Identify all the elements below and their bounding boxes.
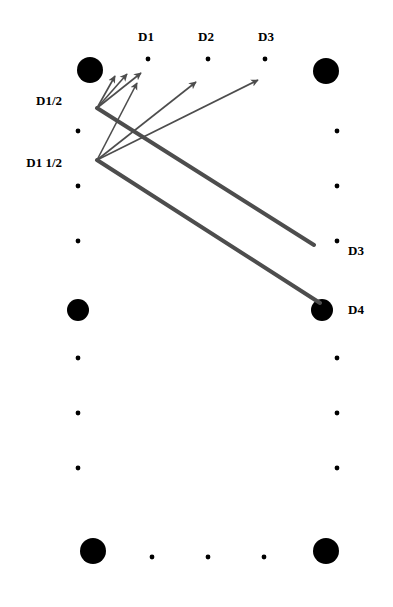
diamond-right-1	[335, 129, 340, 134]
diamond-left-4	[76, 356, 81, 361]
label-top-d3: D3	[258, 30, 274, 43]
arrow-2	[97, 74, 127, 108]
arrow-1	[97, 76, 115, 108]
diamond-left-5	[76, 411, 81, 416]
billiard-table-svg	[0, 0, 393, 607]
diamond-right-5	[335, 411, 340, 416]
middle-right-pocket	[311, 299, 333, 321]
diagram-canvas: D1D2D3D1/2D1 1/2D3D4	[0, 0, 393, 607]
diamond-left-6	[76, 466, 81, 471]
thick-line-to-d3	[97, 108, 314, 245]
thin-shot-arrows-group	[97, 73, 258, 160]
diamond-bottom-3	[262, 555, 267, 560]
middle-left-pocket	[67, 299, 89, 321]
diamond-right-2	[335, 184, 340, 189]
diamond-top-3	[263, 57, 268, 62]
label-right-1: D3	[348, 244, 364, 257]
bottom-right-pocket	[313, 538, 339, 564]
label-left-1: D1/2	[36, 94, 62, 107]
label-top-d1: D1	[138, 30, 154, 43]
diamond-right-6	[335, 466, 340, 471]
diamond-left-3	[76, 239, 81, 244]
thick-line-to-d4	[97, 160, 320, 303]
diamond-top-2	[206, 57, 211, 62]
diamond-left-1	[76, 129, 81, 134]
top-left-pocket	[77, 57, 103, 83]
arrow-5	[97, 82, 196, 160]
bottom-left-pocket	[80, 538, 106, 564]
thick-shot-lines-group	[97, 108, 320, 303]
arrow-4	[97, 83, 137, 160]
top-right-pocket	[313, 58, 339, 84]
diamond-right-3	[335, 239, 340, 244]
label-right-2: D4	[348, 303, 364, 316]
diamond-right-4	[335, 356, 340, 361]
arrow-3	[97, 73, 141, 108]
diamond-bottom-2	[206, 555, 211, 560]
diamond-top-1	[146, 57, 151, 62]
label-top-d2: D2	[198, 30, 214, 43]
diamond-left-2	[76, 184, 81, 189]
diamonds-group	[76, 57, 340, 560]
diamond-bottom-1	[150, 555, 155, 560]
label-left-2: D1 1/2	[26, 156, 62, 169]
pockets-group	[67, 57, 339, 564]
arrow-6	[97, 80, 258, 160]
